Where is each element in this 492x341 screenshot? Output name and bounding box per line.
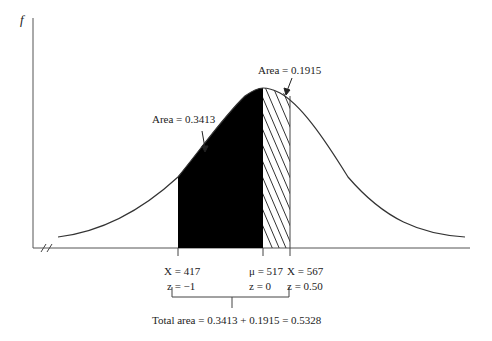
z050-label: z = 0.50 [287, 280, 323, 292]
shaded-area-left [178, 88, 263, 248]
z0-label: z = 0 [249, 280, 271, 292]
y-axis-label: f [20, 14, 24, 26]
right-area-label: Area = 0.1915 [258, 64, 321, 76]
x417-label: X = 417 [164, 265, 200, 277]
total-area-label: Total area = 0.3413 + 0.1915 = 0.5328 [152, 314, 321, 326]
mu-label: μ = 517 [249, 265, 283, 277]
hatched-area-right [262, 80, 308, 294]
left-area-label: Area = 0.3413 [152, 113, 215, 125]
x567-label: X = 567 [287, 265, 323, 277]
marker-ticks [178, 248, 290, 256]
z-neg1-label: z = −1 [167, 280, 195, 292]
normal-curve-plot [0, 0, 492, 341]
